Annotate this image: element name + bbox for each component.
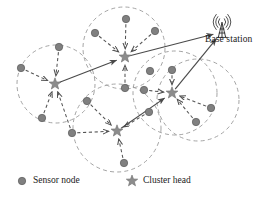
member-to-head-link bbox=[56, 52, 59, 75]
sensor-node-icon bbox=[151, 27, 158, 34]
legend-sensor-node-label: Sensor node bbox=[33, 175, 80, 185]
sensor-node-icon bbox=[18, 177, 25, 184]
cluster-head-icon bbox=[119, 51, 131, 62]
backbone-link-group bbox=[60, 34, 217, 128]
sensor-node-icon bbox=[121, 84, 128, 91]
member-to-head-link bbox=[124, 115, 144, 127]
signal-wave-arc bbox=[218, 19, 219, 25]
figure-canvas: Base station Sensor node Cluster head bbox=[0, 0, 274, 200]
sensor-node-icon bbox=[83, 97, 90, 104]
sensor-node-icon bbox=[192, 118, 199, 125]
sensor-node-icon bbox=[68, 129, 75, 136]
sensor-node-icon bbox=[122, 15, 129, 22]
member-to-head-link bbox=[77, 131, 108, 132]
member-to-head-link bbox=[149, 91, 163, 93]
sensor-node-icon bbox=[145, 108, 152, 115]
backbone-link bbox=[175, 39, 216, 89]
base-station-label: Base station bbox=[205, 34, 252, 44]
member-to-head-link bbox=[91, 105, 111, 125]
member-to-head-link bbox=[177, 100, 192, 118]
member-to-head-link bbox=[44, 92, 52, 113]
member-to-head-link bbox=[58, 92, 71, 128]
member-to-head-link bbox=[99, 36, 118, 51]
signal-wave-arc bbox=[224, 19, 225, 25]
legend-cluster-head-label: Cluster head bbox=[143, 175, 191, 185]
sensor-node-icon bbox=[91, 29, 98, 36]
sensor-node-icon bbox=[207, 104, 214, 111]
cluster-head-icon bbox=[111, 125, 123, 136]
sensor-node-icon bbox=[17, 64, 24, 71]
sensor-node-icon bbox=[140, 86, 147, 93]
member-to-head-link bbox=[180, 96, 206, 106]
cluster-head-group bbox=[49, 51, 178, 136]
backbone-link bbox=[130, 34, 213, 56]
sensor-node-icon bbox=[38, 114, 45, 121]
backbone-link bbox=[60, 60, 117, 82]
sensor-node-icon bbox=[55, 43, 62, 50]
member-to-head-link bbox=[131, 34, 151, 51]
signal-wave-arc bbox=[226, 17, 228, 28]
signal-wave-arc bbox=[216, 17, 218, 28]
cluster-head-icon bbox=[126, 175, 137, 186]
sensor-node-icon bbox=[146, 67, 153, 74]
member-to-head-link bbox=[119, 139, 123, 158]
cluster-head-icon bbox=[49, 78, 61, 89]
member-to-head-link bbox=[125, 24, 126, 48]
sensor-node-icon bbox=[120, 159, 127, 166]
sensor-node-icon bbox=[168, 66, 175, 73]
member-link-group bbox=[26, 24, 206, 158]
sensor-node-group bbox=[17, 15, 214, 166]
network-diagram bbox=[0, 0, 274, 200]
member-to-head-link bbox=[26, 70, 48, 80]
